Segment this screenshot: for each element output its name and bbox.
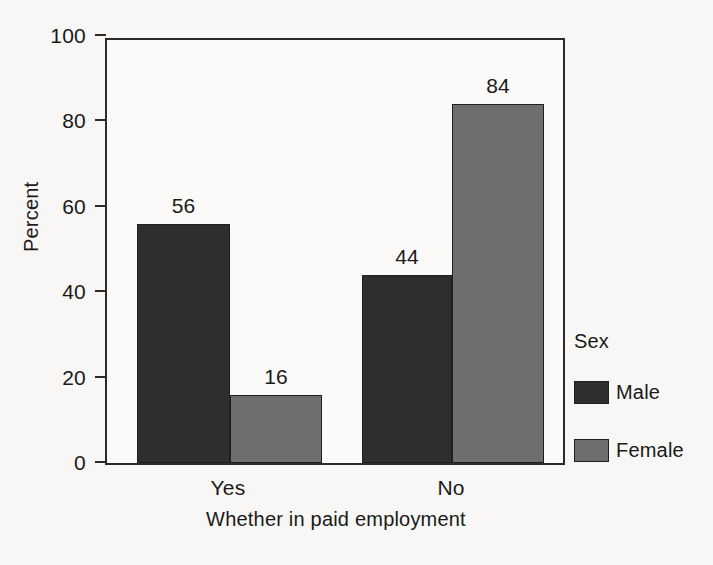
bar-value-label: 16 — [264, 365, 287, 389]
x-axis-label-no: No — [437, 476, 464, 500]
bar-value-label: 44 — [395, 245, 418, 269]
legend: Sex MaleFemale — [574, 330, 704, 495]
y-axis-tick-label: 60 — [62, 195, 86, 219]
legend-item-male: Male — [574, 379, 704, 405]
bar-chart-figure: Percent 020406080100 56164484 YesNo Whet… — [0, 0, 713, 565]
y-axis-tick-label: 20 — [62, 366, 86, 390]
y-axis-tick: 100 — [95, 34, 106, 36]
legend-label-female: Female — [616, 439, 684, 462]
x-axis-label-yes: Yes — [211, 476, 246, 500]
legend-swatch-female — [574, 439, 609, 462]
bar-value-label: 56 — [172, 194, 195, 218]
y-axis-tick-label: 0 — [74, 451, 86, 475]
y-axis-tick: 80 — [95, 119, 106, 121]
y-axis-tick: 40 — [95, 290, 106, 292]
x-axis-title: Whether in paid employment — [206, 508, 466, 531]
legend-title: Sex — [574, 330, 704, 353]
y-axis-tick-label: 80 — [62, 109, 86, 133]
legend-item-female: Female — [574, 437, 704, 463]
legend-swatch-male — [574, 381, 609, 404]
bar-value-label: 84 — [486, 74, 509, 98]
bar-yes-male: 56 — [137, 224, 230, 463]
y-axis-tick: 60 — [95, 205, 106, 207]
legend-label-male: Male — [616, 381, 660, 404]
bar-no-male: 44 — [362, 275, 452, 463]
y-axis-tick: 0 — [95, 461, 106, 463]
legend-entries: MaleFemale — [574, 379, 704, 463]
y-axis-tick: 20 — [95, 376, 106, 378]
bar-yes-female: 16 — [230, 395, 322, 463]
y-axis-tick-label: 40 — [62, 280, 86, 304]
plot-area: 020406080100 56164484 — [105, 38, 565, 465]
y-axis-tick-label: 100 — [50, 24, 86, 48]
bar-no-female: 84 — [452, 104, 544, 463]
y-axis-title: Percent — [20, 182, 43, 252]
